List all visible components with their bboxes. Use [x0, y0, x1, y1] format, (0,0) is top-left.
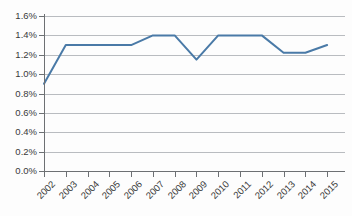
x-axis-labels: 2002200320042005200620072008200920102011…	[0, 0, 352, 216]
line-chart: 0.0%0.2%0.4%0.6%0.8%1.0%1.2%1.4%1.6% 200…	[0, 0, 352, 216]
